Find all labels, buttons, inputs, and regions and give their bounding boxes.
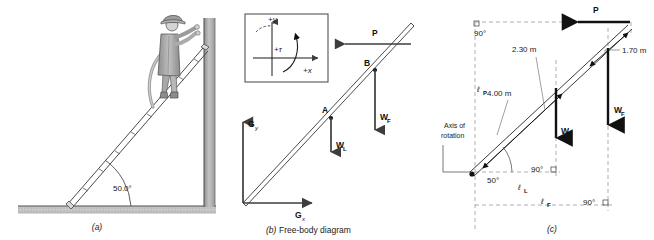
force-P-c: P [578,5,630,22]
moment-arm-P-sub: P [483,90,487,96]
axis-label-line2: rotation [441,132,464,139]
force-Gy-b: G y [243,119,259,203]
moment-arm-L-sub: L [524,188,528,194]
angle-90-bottom-label: 90° [583,198,595,207]
angle-50-label: 50° [487,176,499,185]
dimension-4-00-label: 4.00 m [487,89,512,98]
dimension-1-70-label: 1.70 m [622,46,647,55]
axis-label-line1: Axis of [444,122,465,129]
force-WL-sub-b: L [343,146,347,152]
sign-x-label: +x [303,66,313,75]
angle-90-top-label: 90° [474,29,486,38]
sign-y-label: +y [268,15,278,24]
caption-b-text: Free-body diagram [279,225,351,235]
dimension-2-30-label: 2.30 m [512,45,537,54]
angle-label-a: 50.0° [113,184,132,193]
sign-convention-box: +y +x +τ [245,14,328,82]
panel-a: 50.0° (a) [18,15,216,232]
force-Gx-label: G [295,210,302,220]
dimension-4-00-c: 4.00 m [487,89,512,135]
force-P-label-c: P [593,5,599,15]
force-WF-sub-c: F [621,111,625,117]
moment-arm-L-symbol: ℓ [517,183,521,192]
force-WF-c: W F [608,48,625,125]
moment-arm-P-symbol: ℓ [476,85,480,94]
angle-90-top-c: 90° [474,21,486,38]
angle-90-bottom-c: 90° [583,198,608,207]
force-Gx-sub: x [301,216,306,222]
ground [18,206,216,213]
force-Gx-b: G x [243,203,312,222]
angle-marker-a: 50.0° [105,160,132,206]
panel-b: +y +x +τ A W L B W F [243,14,414,235]
ladder [66,44,209,209]
angle-90-mid-label: 90° [531,165,543,174]
force-P-b: P [345,28,411,44]
caption-c: (c) [547,224,557,234]
moment-arm-F-sub: F [547,202,551,208]
moment-arm-P-c: ℓ P [476,85,487,96]
point-B-label: B [364,58,370,68]
axis-of-rotation-c: Axis of rotation [441,122,470,172]
moment-arm-F-symbol: ℓ [540,197,544,206]
force-WL-sub-c: L [568,132,572,138]
moment-arm-F-c: ℓ F [540,197,551,208]
force-WL-c: W L [556,88,572,138]
force-WF-sub-b: F [387,118,391,124]
force-Gy-label: G [248,119,255,129]
firefighter [158,15,200,98]
moment-arm-L-c: ℓ L [517,183,528,194]
point-A-label: A [322,105,328,115]
force-Gy-sub: y [254,125,259,131]
force-WL-b: A W L [322,105,347,152]
physics-figure: 50.0° (a) +y +x +τ A W L [0,0,654,240]
caption-a: (a) [92,222,103,232]
caption-b: (b) [266,225,277,235]
force-P-label-b: P [372,28,378,38]
dimension-1-70-c: 1.70 m [590,33,647,66]
panel-c: 2.30 m 4.00 m 1.70 m P W L W F [441,5,647,234]
angle-90-mid-c: 90° [531,165,556,174]
sign-torque-label: +τ [274,45,283,54]
